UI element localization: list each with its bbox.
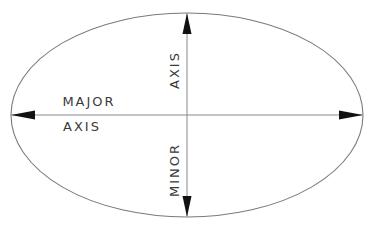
minor-axis-bottom-arrowhead <box>183 196 192 217</box>
major-axis-label-bottom: AXIS <box>63 119 101 134</box>
major-axis-right-arrowhead <box>339 111 363 120</box>
ellipse-diagram: MAJOR AXIS AXIS MINOR <box>0 0 375 226</box>
diagram-svg: MAJOR AXIS AXIS MINOR <box>0 0 375 226</box>
minor-axis-label-lower: MINOR <box>167 143 182 197</box>
minor-axis-label-upper: AXIS <box>167 51 182 89</box>
major-axis-left-arrowhead <box>11 111 35 120</box>
major-axis-label-top: MAJOR <box>62 94 115 109</box>
minor-axis-top-arrowhead <box>183 13 192 34</box>
